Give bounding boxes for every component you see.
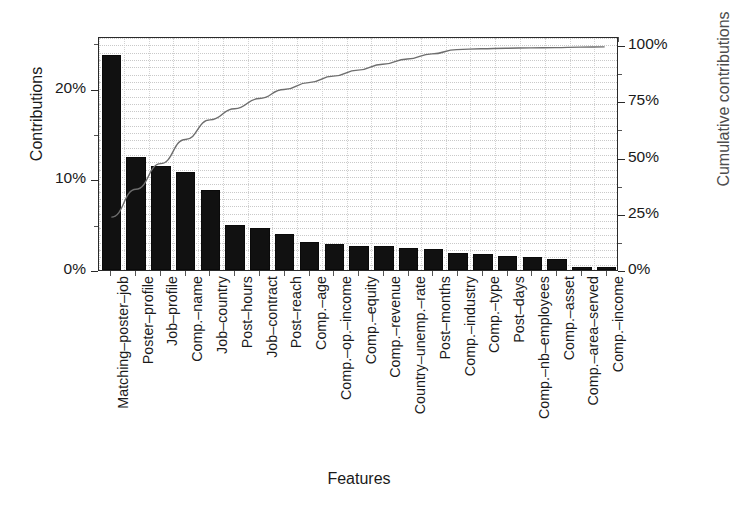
x-axis-tick-mark [284,271,285,276]
secondary-y-axis-tick-label: 75% [628,91,659,109]
cumulative-line-series [99,38,617,270]
x-axis-tick-mark [482,271,483,276]
secondary-y-axis-tick-mark [618,271,625,272]
plot-area [98,37,618,271]
x-axis-tick-label: Comp.–income [611,276,625,372]
secondary-y-axis-minor-tick [618,74,622,75]
x-axis-tick-label: Post–hours [240,276,254,348]
x-axis-tick-mark [333,271,334,276]
x-axis-tick-label: Country–unemp.–rate [413,276,427,414]
y-axis-title: Contributions [28,34,46,194]
x-axis-tick-mark [531,271,532,276]
x-axis-tick-label: Comp.–name [190,276,204,362]
x-axis-tick-mark [110,271,111,276]
x-axis-tick-mark [135,271,136,276]
y-axis-tick-mark [91,180,98,181]
secondary-y-axis-minor-tick [618,243,622,244]
x-axis-tick-mark [185,271,186,276]
x-axis-tick-label: Comp.–op.–income [339,276,353,400]
x-axis-tick-mark [556,271,557,276]
secondary-y-axis-tick-mark [618,215,625,216]
x-axis-tick-mark [581,271,582,276]
secondary-y-axis-tick-label: 25% [628,204,659,222]
x-axis-tick-labels: Matching–poster–jobPoster–profileJob–pro… [98,276,618,471]
x-axis-tick-label: Job–profile [165,276,179,346]
x-axis-tick-mark [234,271,235,276]
x-axis-tick-label: Comp.–age [314,276,328,350]
secondary-y-axis-title: Cumulative contributions [715,0,733,219]
x-axis-tick-mark [309,271,310,276]
y-axis-tick-label: 10% [55,169,86,187]
y-axis-tick-mark [91,90,98,91]
secondary-y-axis-tick-label: 100% [628,35,668,53]
x-axis-tick-label: Comp.–equity [364,276,378,364]
x-axis-tick-label: Job–contract [265,276,279,358]
secondary-y-axis-tick-mark [618,46,625,47]
x-axis-tick-label: Job–country [215,276,229,354]
x-axis-tick-mark [160,271,161,276]
y-axis-tick-mark [91,271,98,272]
x-axis-tick-label: Poster–profile [141,276,155,364]
secondary-y-axis-minor-tick [618,187,622,188]
y-axis-tick-label: 0% [64,260,86,278]
secondary-y-axis-tick-label: 0% [628,260,650,278]
x-axis-tick-label: Matching–poster–job [116,276,130,409]
x-axis-tick-label: Comp.–industry [463,276,477,376]
secondary-y-axis-tick-mark [618,102,625,103]
x-axis-tick-label: Comp.–area–served [586,276,600,406]
secondary-y-axis-tick-label: 50% [628,148,659,166]
top-axis-tick [618,37,619,42]
x-axis-tick-label: Post–months [438,276,452,359]
x-axis-title: Features [0,470,718,488]
x-axis-tick-mark [507,271,508,276]
x-axis-tick-label: Comp.–type [487,276,501,353]
x-axis-tick-label: Comp.–revenue [388,276,402,378]
x-axis-tick-label: Comp.–asset [562,276,576,360]
y-axis-tick-label: 20% [55,79,86,97]
secondary-y-axis-minor-tick [618,130,622,131]
x-axis-tick-mark [383,271,384,276]
x-axis-tick-mark [209,271,210,276]
x-axis-tick-mark [408,271,409,276]
x-axis-tick-label: Post–days [512,276,526,343]
x-axis-tick-mark [358,271,359,276]
secondary-y-axis-tick-mark [618,159,625,160]
x-axis-tick-mark [606,271,607,276]
x-axis-tick-mark [457,271,458,276]
x-axis-tick-mark [432,271,433,276]
x-axis-tick-mark [259,271,260,276]
x-axis-tick-label: Comp.–nb–employees [537,276,551,419]
x-axis-tick-label: Post–reach [289,276,303,348]
